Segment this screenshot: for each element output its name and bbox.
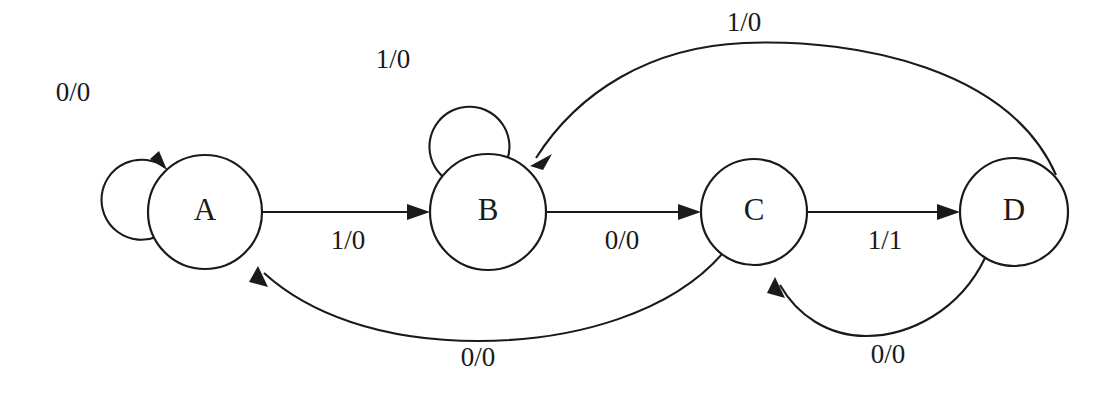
state-d-label: D (1003, 192, 1025, 227)
transition-a-to-b (262, 204, 430, 220)
state-node-a[interactable]: A (148, 155, 262, 269)
transition-d-to-c (767, 258, 985, 336)
c-to-a-arrowhead (249, 266, 268, 287)
a-self-loop-arrowhead (150, 151, 167, 170)
c-to-d-arrowhead (937, 204, 960, 220)
transition-label-d-to-b: 1/0 (727, 7, 762, 37)
transition-label-d-to-c: 0/0 (871, 339, 906, 369)
transition-b-to-c (546, 204, 701, 220)
state-c-label: C (744, 192, 765, 227)
fsm-canvas: A B C D 0/0 1/0 1/0 0/0 1/1 1/0 0/0 0/0 (0, 0, 1120, 400)
d-to-b-path (536, 43, 1056, 175)
d-to-b-arrowhead (530, 154, 552, 170)
transition-label-c-to-a: 0/0 (461, 342, 496, 372)
transition-c-to-d (807, 204, 960, 220)
transition-label-a-to-b: 1/0 (331, 225, 366, 255)
d-to-c-path (780, 258, 985, 336)
state-a-label: A (194, 192, 217, 227)
transition-label-c-to-d: 1/1 (868, 225, 903, 255)
transition-label-a-self: 0/0 (56, 77, 91, 107)
transition-label-b-self: 1/0 (376, 44, 411, 74)
state-b-label: B (478, 192, 499, 227)
transition-label-b-to-c: 0/0 (605, 225, 640, 255)
state-node-d[interactable]: D (960, 158, 1068, 266)
state-node-c[interactable]: C (701, 159, 807, 265)
state-machine-diagram: A B C D 0/0 1/0 1/0 0/0 1/1 1/0 0/0 0/0 (0, 0, 1120, 400)
b-to-c-arrowhead (678, 204, 701, 220)
a-to-b-arrowhead (407, 204, 430, 220)
transition-d-to-b (530, 43, 1056, 175)
state-node-b[interactable]: B (430, 154, 546, 270)
